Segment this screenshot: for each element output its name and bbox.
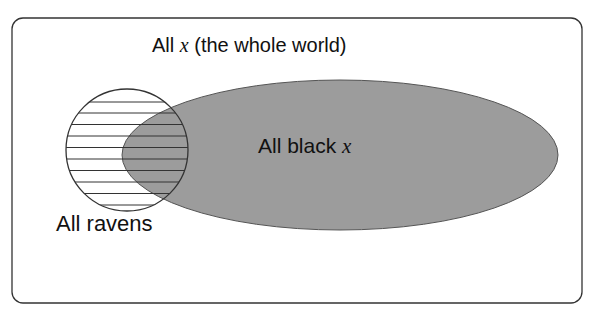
venn-diagram: All x (the whole world) All ravens All b… [0,0,594,317]
universe-label: All x (the whole world) [152,34,347,56]
black-things-label: All black x [258,134,352,158]
ravens-label: All ravens [56,211,153,236]
